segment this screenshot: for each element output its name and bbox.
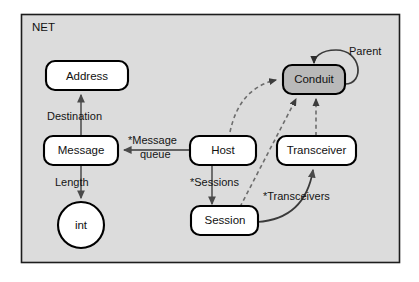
node-message[interactable]: Message	[44, 136, 118, 165]
node-transceiver[interactable]: Transceiver	[277, 136, 356, 165]
node-session-label: Session	[205, 214, 246, 226]
node-conduit[interactable]: Conduit	[283, 65, 345, 94]
node-conduit-label: Conduit	[294, 73, 334, 85]
node-int-label: int	[75, 219, 88, 231]
edge-label-destination: Destination	[47, 110, 102, 122]
node-address-label: Address	[66, 70, 108, 82]
diagram-canvas: NET Destination Length *Message queue *S…	[0, 0, 419, 282]
node-session[interactable]: Session	[191, 206, 258, 235]
node-host-label: Host	[211, 144, 235, 156]
edge-label-length: Length	[55, 176, 89, 188]
node-int[interactable]: int	[58, 202, 104, 248]
edge-label-transceivers: *Transceivers	[263, 190, 330, 202]
node-address[interactable]: Address	[46, 61, 128, 90]
edge-label-message-queue-line2: queue	[140, 148, 171, 160]
node-transceiver-label: Transceiver	[287, 144, 347, 156]
edge-label-sessions: *Sessions	[190, 176, 239, 188]
edge-label-parent: Parent	[349, 45, 381, 57]
package-label: NET	[32, 21, 55, 33]
edge-label-message-queue-line1: *Message	[128, 134, 177, 146]
node-host[interactable]: Host	[190, 136, 256, 165]
node-message-label: Message	[58, 144, 105, 156]
net-class-diagram: NET Destination Length *Message queue *S…	[0, 0, 419, 282]
